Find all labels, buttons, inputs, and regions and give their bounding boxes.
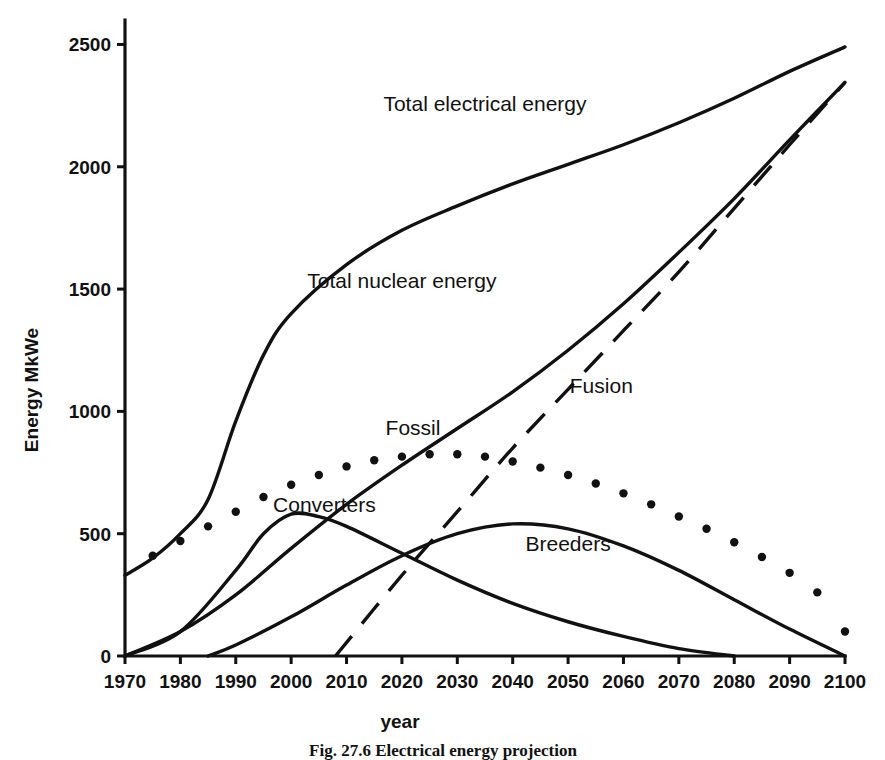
x-tick-label-1980: 1980 <box>159 671 201 692</box>
fossil-data-point <box>758 553 766 561</box>
fossil-data-point <box>342 462 350 470</box>
plot-curves <box>125 47 849 656</box>
x-tick-label-2010: 2010 <box>325 671 367 692</box>
x-tick-label-2020: 2020 <box>381 671 423 692</box>
fossil-data-point <box>287 481 295 489</box>
fossil-data-point <box>481 452 489 460</box>
x-tick-label-2070: 2070 <box>658 671 700 692</box>
x-tick-label-2100: 2100 <box>824 671 866 692</box>
fossil-data-point <box>259 493 267 501</box>
series-fusion <box>335 82 845 656</box>
fossil-data-point <box>148 552 156 560</box>
electrical-energy-projection-chart: 05001000150020002500 1970198019902000201… <box>0 0 885 760</box>
fossil-data-point <box>813 588 821 596</box>
x-tick-label-2040: 2040 <box>492 671 534 692</box>
y-tick-label-1000: 1000 <box>69 401 111 422</box>
fossil-data-point <box>370 456 378 464</box>
fossil-data-point <box>702 525 710 533</box>
x-tick-label-2000: 2000 <box>270 671 312 692</box>
fossil-data-point <box>536 463 544 471</box>
series-fossil <box>148 450 849 636</box>
x-tick-label-1990: 1990 <box>215 671 257 692</box>
fossil-data-point <box>592 479 600 487</box>
figure-container: 05001000150020002500 1970198019902000201… <box>0 0 885 760</box>
series-label-fusion: Fusion <box>570 374 633 397</box>
fossil-data-point <box>841 627 849 635</box>
x-tick-label-2050: 2050 <box>547 671 589 692</box>
fossil-data-point <box>730 538 738 546</box>
fossil-data-point <box>785 569 793 577</box>
x-tick-label-2090: 2090 <box>768 671 810 692</box>
fossil-data-point <box>564 471 572 479</box>
series-total-nuclear-energy <box>125 82 845 656</box>
fossil-data-point <box>425 450 433 458</box>
series-converters <box>125 513 734 656</box>
y-tick-label-1500: 1500 <box>69 279 111 300</box>
y-tick-label-0: 0 <box>100 646 111 667</box>
x-tick-label-2080: 2080 <box>713 671 755 692</box>
series-label-fossil: Fossil <box>386 416 441 439</box>
y-tick-label-2000: 2000 <box>69 157 111 178</box>
x-axis-tick-labels: 1970198019902000201020202030204020502060… <box>104 671 866 692</box>
fossil-data-point <box>453 450 461 458</box>
x-tick-label-2030: 2030 <box>436 671 478 692</box>
y-axis-tick-labels: 05001000150020002500 <box>69 34 111 667</box>
fossil-data-point <box>176 537 184 545</box>
fossil-data-point <box>619 489 627 497</box>
series-label-breeders: Breeders <box>525 532 610 555</box>
figure-caption: Fig. 27.6 Electrical energy projection <box>309 741 577 760</box>
x-tick-label-1970: 1970 <box>104 671 146 692</box>
axes <box>117 20 845 664</box>
y-axis-title: Energy MkWe <box>21 328 42 452</box>
series-label-total-nuclear-energy: Total nuclear energy <box>307 269 497 292</box>
series-label-converters: Converters <box>273 493 376 516</box>
fossil-data-point <box>232 507 240 515</box>
fossil-data-point <box>508 457 516 465</box>
x-tick-label-2060: 2060 <box>602 671 644 692</box>
x-axis-title: year <box>380 711 420 732</box>
y-tick-label-500: 500 <box>79 524 111 545</box>
fossil-data-point <box>398 452 406 460</box>
series-label-total-electrical-energy: Total electrical energy <box>383 92 587 115</box>
series-total-electrical-energy <box>125 47 845 575</box>
fossil-data-point <box>675 512 683 520</box>
fossil-data-point <box>647 500 655 508</box>
fossil-data-point <box>204 522 212 530</box>
y-tick-label-2500: 2500 <box>69 34 111 55</box>
fossil-data-point <box>315 471 323 479</box>
